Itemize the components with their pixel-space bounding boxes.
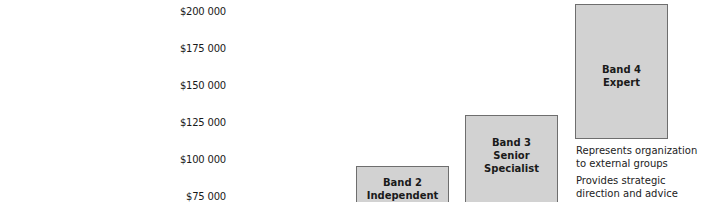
band-label: Band 3 — [492, 136, 531, 149]
band-3-bar: Band 3 Senior Specialist — [465, 115, 558, 202]
description-line: to external groups — [576, 157, 697, 170]
band-label: Independent — [367, 189, 439, 202]
y-tick: $150 000 — [180, 80, 226, 91]
description-line: Represents organization — [576, 144, 697, 157]
y-tick: $100 000 — [180, 154, 226, 165]
band-4-description-2: Provides strategic direction and advice — [576, 174, 678, 200]
band-label: Senior — [493, 149, 529, 162]
y-tick: $75 000 — [186, 191, 226, 202]
band-label: Expert — [603, 76, 640, 89]
band-4-description-1: Represents organization to external grou… — [576, 144, 697, 170]
y-tick: $200 000 — [180, 6, 226, 17]
y-tick: $175 000 — [180, 43, 226, 54]
band-label: Specialist — [484, 162, 539, 175]
band-label: Band 2 — [383, 176, 422, 189]
y-tick: $125 000 — [180, 117, 226, 128]
description-line: direction and advice — [576, 187, 678, 200]
band-4-bar: Band 4 Expert — [575, 4, 668, 139]
description-line: Provides strategic — [576, 174, 678, 187]
band-2-bar: Band 2 Independent — [356, 166, 449, 202]
band-label: Band 4 — [602, 63, 641, 76]
